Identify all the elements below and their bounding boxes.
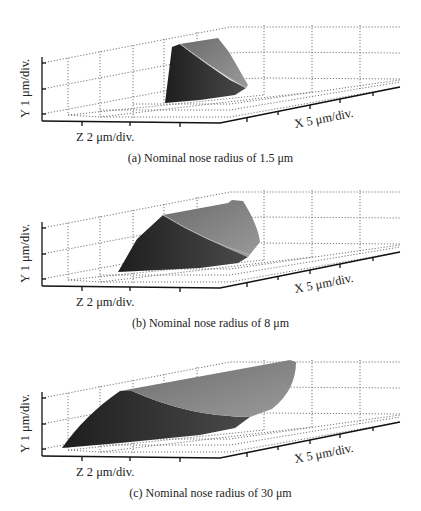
caption-a: (a) Nominal nose radius of 1.5 μm (0, 151, 421, 166)
panel-c: Y 1 μm/div. Z 2 μm/div. X 5 μm/div. (c) … (0, 335, 421, 505)
caption-c: (c) Nominal nose radius of 30 μm (0, 486, 421, 501)
surface-plot-b (0, 165, 421, 335)
panel-b: Y 1 μm/div. Z 2 μm/div. X 5 μm/div. (b) … (0, 165, 421, 335)
caption-b: (b) Nominal nose radius of 8 μm (0, 316, 421, 331)
z-axis-label: Z 2 μm/div. (76, 130, 134, 145)
surface-plot-c (0, 335, 421, 505)
y-axis-label: Y 1 μm/div. (18, 59, 33, 118)
z-axis-label: Z 2 μm/div. (76, 465, 134, 480)
z-axis-label: Z 2 μm/div. (76, 295, 134, 310)
surface-plot-a (0, 0, 421, 170)
panel-a: Y 1 μm/div. Z 2 μm/div. X 5 μm/div. (a) … (0, 0, 421, 170)
y-axis-label: Y 1 μm/div. (18, 394, 33, 453)
y-axis-label: Y 1 μm/div. (18, 224, 33, 283)
